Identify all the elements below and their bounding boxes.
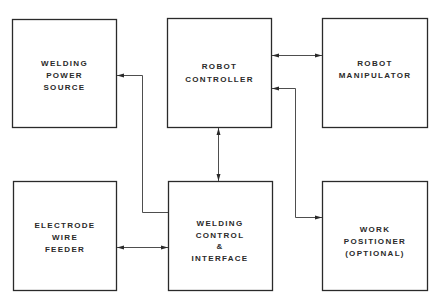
node-label-line: CONTROLLER xyxy=(185,75,254,84)
arrowhead-icon xyxy=(161,246,168,250)
edge-feeder-welding-control xyxy=(117,246,168,250)
arrowhead-icon xyxy=(217,174,221,181)
arrowhead-icon xyxy=(117,74,124,78)
node-label-line: MANIPULATOR xyxy=(339,71,412,80)
edge-controller-manipulator xyxy=(272,54,322,58)
arrowhead-icon xyxy=(117,246,124,250)
node-label-line: WIRE xyxy=(52,233,78,242)
node-label-line: FEEDER xyxy=(45,245,85,254)
node-label-line: ELECTRODE xyxy=(34,221,95,230)
node-label-line: INTERFACE xyxy=(191,254,248,263)
edge-controller-positioner xyxy=(272,87,322,220)
arrowhead-icon xyxy=(315,216,322,220)
edge-controller-welding-control xyxy=(217,128,221,181)
node-label-line: CONTROL xyxy=(196,231,245,240)
edge-welding-control-power-source xyxy=(117,74,168,213)
node-electrode-wire-feeder: ELECTRODE WIRE FEEDER xyxy=(14,182,117,291)
node-label-line: ROBOT xyxy=(202,62,237,71)
node-label-line: WELDING xyxy=(41,59,88,68)
arrowhead-icon xyxy=(272,54,279,58)
node-label-line: (OPTIONAL) xyxy=(345,249,405,258)
node-label-line: SOURCE xyxy=(43,83,85,92)
node-label-line: WELDING xyxy=(197,219,244,228)
node-label-line: POSITIONER xyxy=(344,237,406,246)
node-label-line: POWER xyxy=(46,71,83,80)
arrowhead-icon xyxy=(272,87,279,91)
node-robot-controller: ROBOT CONTROLLER xyxy=(168,19,272,128)
node-welding-power-source: WELDING POWER SOURCE xyxy=(13,20,117,128)
node-label-line: ROBOT xyxy=(357,59,392,68)
node-label-line: & xyxy=(216,242,223,251)
node-robot-manipulator: ROBOT MANIPULATOR xyxy=(323,19,428,128)
arrowhead-icon xyxy=(217,128,221,135)
node-label-line: WORK xyxy=(360,225,391,234)
node-work-positioner: WORK POSITIONER (OPTIONAL) xyxy=(323,182,428,291)
node-welding-control-interface: WELDING CONTROL & INTERFACE xyxy=(169,182,273,291)
block-diagram: WELDING POWER SOURCE ROBOT CONTROLLER RO… xyxy=(0,0,437,301)
arrowhead-icon xyxy=(315,54,322,58)
